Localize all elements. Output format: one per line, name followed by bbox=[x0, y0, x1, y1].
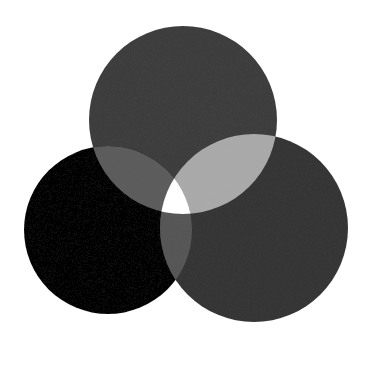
venn-watercolor-image: Three overlapping watercolor circles in … bbox=[0, 0, 372, 365]
circles-canvas bbox=[0, 0, 372, 365]
